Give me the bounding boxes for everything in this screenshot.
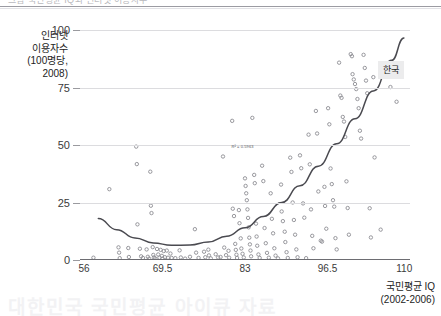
scatter-point (260, 164, 263, 167)
y-tick-label: 0 (64, 254, 70, 266)
r-squared-annotation: R² = 0.5963 (231, 144, 253, 149)
scatter-point (117, 246, 120, 249)
x-axis-line (80, 259, 410, 260)
scatter-point (373, 156, 376, 159)
scatter-point (251, 116, 254, 119)
scatter-chart-figure: 인터넷 이용자수 (100명당, 2008) 국민평균 IQ (2002-200… (0, 9, 441, 316)
scatter-point (245, 192, 248, 195)
scatter-point (169, 252, 172, 255)
scatter-point (248, 243, 251, 246)
scatter-point (227, 249, 230, 252)
scatter-point (357, 107, 360, 110)
scatter-point (303, 216, 306, 219)
scatter-point (221, 155, 224, 158)
scatter-point (240, 247, 243, 250)
y-tick-label: 75 (58, 82, 70, 94)
scatter-point (333, 205, 336, 208)
plot-area: 0255075100 5669.58396.5110 R² = 0.5963 한… (80, 30, 410, 260)
scatter-point (223, 246, 226, 249)
scatter-point (285, 250, 288, 253)
y-tick-label: 50 (58, 139, 70, 151)
header-divider-rule (0, 6, 441, 7)
scatter-point (135, 162, 138, 165)
scatter-point (356, 97, 359, 100)
scatter-point (262, 179, 265, 182)
scatter-point (243, 177, 246, 180)
scatter-point (280, 210, 283, 213)
scatter-point (298, 154, 301, 157)
scatter-point (244, 184, 247, 187)
scatter-point (138, 247, 141, 250)
scatter-point (323, 204, 326, 207)
gridline (80, 30, 410, 31)
scatter-point (346, 206, 349, 209)
scatter-point (295, 248, 298, 251)
scatter-point (362, 53, 365, 56)
scatter-point (293, 233, 296, 236)
scatter-point (151, 245, 154, 248)
scatter-point (290, 170, 293, 173)
scatter-point (309, 208, 312, 211)
scatter-point (231, 207, 234, 210)
scatter-point (326, 107, 329, 110)
scatter-point (342, 120, 345, 123)
y-tick-label: 25 (58, 197, 70, 209)
scatter-point (270, 217, 273, 220)
scatter-point (271, 232, 274, 235)
scatter-point (136, 223, 139, 226)
scatter-point (308, 163, 311, 166)
x-tick-label: 56 (78, 263, 89, 274)
x-tick-label: 69.5 (153, 263, 172, 274)
scatter-point (207, 248, 210, 251)
scatter-point (341, 115, 344, 118)
scatter-point (241, 252, 244, 255)
scatter-point (347, 233, 350, 236)
scatter-point (249, 255, 252, 258)
scatter-point (329, 167, 332, 170)
scatter-point (264, 242, 267, 245)
scatter-point (178, 249, 181, 252)
scatter-point (300, 167, 303, 170)
y-tick-mark (73, 203, 80, 204)
scatter-point (325, 227, 328, 230)
scatter-point (263, 226, 266, 229)
scatter-point (257, 253, 260, 256)
scatter-point (246, 216, 249, 219)
scatter-point (395, 100, 398, 103)
scatter-point (334, 236, 337, 239)
scatter-point (292, 218, 295, 221)
scatter-point (317, 190, 320, 193)
scatter-point (194, 251, 197, 254)
x-axis-title: 국민평균 IQ (2002-2006) (300, 281, 435, 306)
scatter-point (281, 219, 284, 222)
scatter-point (345, 180, 348, 183)
scatter-point (248, 236, 251, 239)
scatter-point (232, 214, 235, 217)
x-tick-label: 110 (396, 263, 412, 274)
scatter-point (145, 248, 148, 251)
x-axis-title-line-2: (2002-2006) (300, 294, 435, 307)
gridline (80, 88, 410, 89)
scatter-point (315, 132, 318, 135)
scatter-point (289, 156, 292, 159)
scatter-point (246, 208, 249, 211)
y-tick-mark (73, 260, 80, 261)
scatter-point (234, 242, 237, 245)
scatter-point (279, 183, 282, 186)
gridline (80, 203, 410, 204)
scatter-point (353, 82, 356, 85)
scatter-point (150, 211, 153, 214)
x-axis-title-line-1: 국민평균 IQ (300, 281, 435, 294)
scatter-point (117, 251, 120, 254)
y-tick-mark (73, 88, 80, 89)
scatter-point (224, 253, 227, 256)
scatter-point (379, 228, 382, 231)
scatter-point (155, 247, 158, 250)
scatter-point (314, 109, 317, 112)
scatter-point (269, 192, 272, 195)
scatter-point (364, 79, 367, 82)
scatter-point (253, 181, 256, 184)
scatter-point (249, 249, 252, 252)
trend-curve (98, 38, 404, 245)
scatter-point (358, 129, 361, 132)
